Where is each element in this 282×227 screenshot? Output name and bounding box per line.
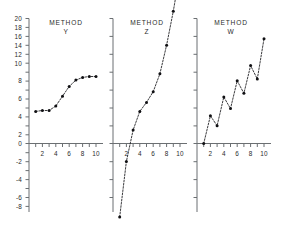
panel-z-x-ticks [120, 144, 180, 148]
x-tick-label: 10 [92, 150, 100, 157]
panel-z-title-line2: Z [145, 28, 150, 35]
y-tick-label: 12 [14, 51, 22, 58]
y-tick-label: 14 [14, 42, 22, 49]
y-tick-label: 16 [14, 33, 22, 40]
x-tick-label: 2 [209, 150, 213, 157]
y-tick-label: 4 [18, 113, 22, 120]
y-tick-label: -2 [16, 158, 22, 165]
panel-w-x-ticks [204, 144, 264, 148]
x-tick-label: 10 [176, 150, 184, 157]
y-tick-label: 0 [18, 140, 22, 147]
panel-y-y-ticks [26, 19, 30, 207]
x-tick-label: 6 [235, 150, 239, 157]
panel-z-x-tick-labels: 2 4 6 8 10 [125, 150, 184, 157]
panel-y-series-line [36, 77, 96, 112]
y-tick-label: -4 [16, 176, 22, 183]
y-tick-label: 18 [14, 24, 22, 31]
panel-z-markers [118, 10, 175, 219]
y-tick-label: 6 [18, 95, 22, 102]
panel-w-series-line [204, 39, 264, 144]
panel-y-title-line1: METHOD [49, 19, 83, 26]
x-tick-label: 8 [165, 150, 169, 157]
panel-w-x-tick-labels: 2 4 6 8 10 [209, 150, 268, 157]
three-panel-chart: 20 18 16 14 12 10 8 6 4 2 0 -2 -4 -6 -8 [0, 0, 282, 227]
panel-z-title-line1: METHOD [130, 19, 164, 26]
panel-y-title-line2: Y [63, 28, 68, 35]
panel-method-w: 2 4 6 8 10 METHOD W [194, 19, 272, 213]
x-tick-label: 4 [222, 150, 226, 157]
y-tick-label: -8 [16, 203, 22, 210]
figure-canvas: 20 18 16 14 12 10 8 6 4 2 0 -2 -4 -6 -8 [0, 0, 282, 227]
x-tick-label: 10 [260, 150, 268, 157]
x-tick-label: 8 [81, 150, 85, 157]
panel-z-series-line [120, 0, 180, 217]
x-tick-label: 6 [151, 150, 155, 157]
y-tick-label: 2 [18, 131, 22, 138]
y-tick-label: -6 [16, 194, 22, 201]
x-tick-label: 4 [138, 150, 142, 157]
x-tick-label: 8 [249, 150, 253, 157]
panel-method-z: 2 4 6 8 10 METHOD Z [110, 0, 188, 218]
panel-method-y: 20 18 16 14 12 10 8 6 4 2 0 -2 -4 -6 -8 [14, 15, 103, 212]
panel-w-title-line1: METHOD [214, 19, 248, 26]
panel-w-markers [202, 37, 265, 145]
x-tick-label: 6 [67, 150, 71, 157]
y-tick-label: 10 [14, 60, 22, 67]
x-tick-label: 4 [54, 150, 58, 157]
y-tick-label: 8 [18, 77, 22, 84]
panel-y-x-ticks [36, 144, 96, 148]
panel-z-y-ticks [110, 19, 114, 198]
panel-w-title-line2: W [227, 28, 234, 35]
panel-y-markers [34, 75, 97, 113]
x-tick-label: 2 [41, 150, 45, 157]
panel-w-y-ticks [194, 19, 198, 198]
panel-y-x-tick-labels: 2 4 6 8 10 [41, 150, 100, 157]
panel-y-y-tick-labels: 20 18 16 14 12 10 8 6 4 2 0 -2 -4 -6 -8 [14, 15, 22, 210]
y-tick-label: 20 [14, 15, 22, 22]
